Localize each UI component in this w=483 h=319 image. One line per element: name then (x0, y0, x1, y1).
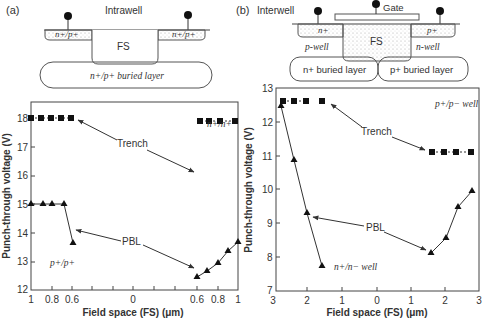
svg-text:16: 16 (17, 170, 29, 181)
region-left-label: n+ (318, 25, 329, 35)
x-axis-label-a: Field space (FS) (μm) (82, 307, 183, 318)
pp-well-label-b: p+/p− well (434, 99, 479, 109)
nn-label-a: n+/n+ (207, 119, 232, 129)
svg-text:1: 1 (235, 294, 241, 305)
svg-text:8: 8 (267, 252, 273, 263)
contact-left-icon (64, 12, 72, 20)
panel-label-a: (a) (6, 4, 19, 16)
diagram-a: (a) Intrawell n+/p+ n+/p+ FS n+/p+ burie… (6, 4, 212, 88)
svg-text:3: 3 (476, 295, 482, 306)
region-right-label: n+/p+ (172, 29, 196, 39)
fs-label: FS (370, 36, 383, 47)
chart-a: 18 17 16 15 14 13 12 1 0.8 0.6 0 0.6 0.8… (1, 102, 242, 318)
p-well-label: p-well (304, 42, 329, 52)
pbl-markers-left (28, 200, 77, 245)
svg-text:0.6: 0.6 (65, 294, 79, 305)
trench-markers-right (429, 149, 474, 155)
svg-text:13: 13 (262, 83, 274, 94)
svg-text:12: 12 (262, 117, 274, 128)
x-axis-label-b: Field space (FS) (μm) (326, 307, 427, 318)
svg-text:11: 11 (262, 151, 273, 162)
plot-frame-b (276, 88, 479, 291)
diagram-b: (b) Interwell Gate n+ p+ FS p-well n-wel… (236, 0, 468, 81)
nn-well-label-b: n+/n− well (334, 262, 378, 272)
svg-text:2: 2 (442, 295, 448, 306)
pbl-markers-left (278, 102, 326, 268)
trench-annotation-b: Trench (361, 126, 392, 137)
pbl-markers-right (428, 187, 476, 255)
figure: (a) Intrawell n+/p+ n+/p+ FS n+/p+ burie… (0, 0, 483, 319)
trench-annotation-a: Trench (117, 138, 148, 149)
svg-text:17: 17 (17, 142, 29, 153)
svg-text:12: 12 (17, 284, 29, 295)
svg-text:0.8: 0.8 (211, 294, 225, 305)
diagram-b-title: Interwell (257, 5, 294, 16)
pbl-annotation-a: PBL (122, 236, 141, 247)
contact-left-icon (314, 7, 322, 15)
svg-text:10: 10 (262, 184, 274, 195)
panel-label-b: (b) (236, 4, 249, 16)
svg-text:14: 14 (17, 228, 29, 239)
svg-text:0: 0 (374, 295, 380, 306)
svg-text:3: 3 (270, 295, 276, 306)
svg-text:9: 9 (267, 218, 273, 229)
svg-text:0.8: 0.8 (45, 294, 59, 305)
diagram-a-title: Intrawell (105, 5, 142, 16)
svg-text:0.6: 0.6 (190, 294, 204, 305)
fs-label: FS (117, 41, 130, 52)
gate-contact-icon (372, 0, 380, 8)
svg-text:2: 2 (304, 295, 310, 306)
chart-b: 13 12 11 10 9 8 7 3 2 1 0 1 2 3 Field sp… (243, 83, 482, 318)
gate-label: Gate (383, 2, 404, 13)
svg-text:1: 1 (28, 294, 34, 305)
svg-text:1: 1 (339, 295, 345, 306)
contact-right-icon (184, 11, 192, 19)
p-buried-layer-label: p+ buried layer (390, 64, 453, 75)
pp-label-a: p+/p+ (49, 258, 75, 268)
pbl-markers-right (194, 238, 242, 279)
trench-markers-left (280, 98, 325, 104)
pbl-annotation-b: PBL (366, 222, 385, 233)
svg-text:15: 15 (17, 199, 29, 210)
n-well-label: n-well (416, 42, 440, 52)
svg-text:13: 13 (17, 256, 29, 267)
buried-layer-label: n+/p+ buried layer (90, 71, 164, 81)
gate-electrode (335, 14, 419, 20)
region-left-label: n+/p+ (55, 29, 79, 39)
y-axis-label-a: Punch-through voltage (V) (1, 133, 12, 259)
region-right-label: p+ (426, 25, 438, 35)
y-axis-label-b: Punch-through voltage (V) (243, 127, 254, 253)
svg-text:0: 0 (130, 294, 136, 305)
svg-text:18: 18 (17, 113, 29, 124)
n-buried-layer-label: n+ buried layer (303, 64, 366, 75)
contact-right-icon (436, 7, 444, 15)
svg-text:1: 1 (408, 295, 414, 306)
